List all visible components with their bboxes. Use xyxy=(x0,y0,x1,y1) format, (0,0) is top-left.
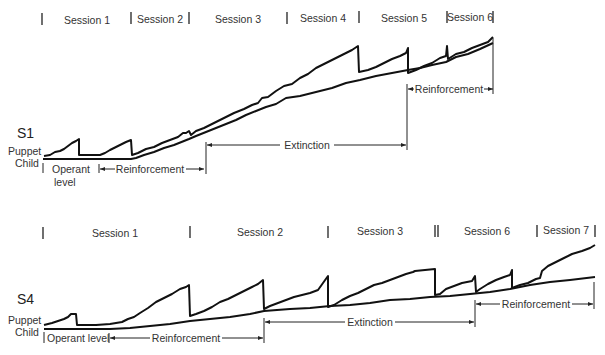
s1-phase-operant-label-2: level xyxy=(54,176,76,188)
s4-session-2-label: Session 2 xyxy=(237,226,283,238)
s1-child-label: Child xyxy=(15,157,39,169)
s1-session-4-label: Session 4 xyxy=(300,12,346,24)
s1-phase-extinction-label: Extinction xyxy=(284,139,330,151)
s1-session-1-label: Session 1 xyxy=(64,14,110,26)
s4-phase-operant-label: Operant level xyxy=(47,332,109,344)
s1-subject-label: S1 xyxy=(17,125,34,141)
s4-session-3-label: Session 3 xyxy=(357,225,403,237)
s4-child-label: Child xyxy=(15,326,39,338)
s4-phase-markers xyxy=(44,282,594,343)
s4-session-6-label: Session 6 xyxy=(464,225,510,237)
s1-phase-operant-label-1: Operant xyxy=(52,163,90,175)
s4-session-1-label: Session 1 xyxy=(92,227,138,239)
s4-subject-label: S4 xyxy=(17,291,34,307)
s1-child-curve xyxy=(43,43,493,159)
s1-phase-reinforcement-1-label: Reinforcement xyxy=(116,163,184,175)
s1-session-3-label: Session 3 xyxy=(215,13,261,25)
panel-s1: Session 1 Session 2 Session 3 Session 4 … xyxy=(8,11,493,188)
s4-phase-reinforcement-2-label: Reinforcement xyxy=(502,298,570,310)
s1-session-5-label: Session 5 xyxy=(381,12,427,24)
s4-puppet-label: Puppet xyxy=(8,314,41,326)
s1-session-2-label: Session 2 xyxy=(137,13,183,25)
s4-phase-reinforcement-1-label: Reinforcement xyxy=(152,332,220,344)
s1-phase-reinforcement-2-label: Reinforcement xyxy=(415,83,483,95)
s4-session-7-label: Session 7 xyxy=(543,224,589,236)
s1-puppet-label: Puppet xyxy=(8,145,41,157)
s1-session-6-label: Session 6 xyxy=(447,11,493,23)
s4-phase-extinction-label: Extinction xyxy=(347,316,393,328)
s1-puppet-curve xyxy=(44,37,493,156)
s4-puppet-curve xyxy=(44,245,595,325)
cumulative-record-figure: Session 1 Session 2 Session 3 Session 4 … xyxy=(0,0,605,355)
panel-s4: Session 1 Session 2 Session 3 Session 6 … xyxy=(8,224,595,344)
